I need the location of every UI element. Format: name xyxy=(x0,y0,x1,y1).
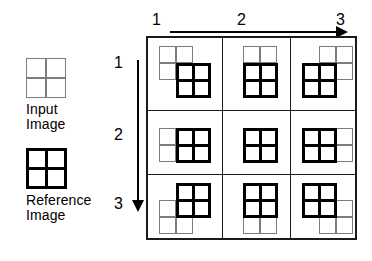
top-axis-tick-1: 1 xyxy=(152,12,161,28)
divider-horizontal xyxy=(305,144,334,147)
divider-horizontal xyxy=(179,144,208,147)
top-axis: 1 2 3 xyxy=(146,12,358,36)
divider-horizontal xyxy=(179,199,208,202)
left-axis-arrow-line xyxy=(137,60,139,202)
reference-image-square-icon xyxy=(243,183,278,218)
divider-horizontal xyxy=(27,77,65,78)
matrix-cell-r1-c1 xyxy=(148,38,223,111)
divider-horizontal xyxy=(305,199,334,202)
reference-image-square-icon xyxy=(176,63,211,98)
divider-horizontal xyxy=(246,144,275,147)
divider-horizontal xyxy=(246,199,275,202)
matrix-cell-r3-c3 xyxy=(291,175,355,238)
matrix-cell-r2-c3 xyxy=(291,111,355,175)
reference-image-square-icon xyxy=(302,63,337,98)
reference-image-square-icon xyxy=(243,63,278,98)
reference-image-square-icon xyxy=(243,128,278,163)
left-axis-arrow-head-icon xyxy=(132,200,144,212)
matrix-cell-r3-c1 xyxy=(148,175,223,238)
left-axis: 1 2 3 xyxy=(112,36,146,240)
matrix-cell-r1-c2 xyxy=(223,38,291,111)
reference-image-square-icon xyxy=(302,128,337,163)
input-image-square-icon xyxy=(26,58,66,98)
left-axis-tick-3: 3 xyxy=(114,196,123,212)
left-axis-tick-2: 2 xyxy=(114,127,123,143)
divider-horizontal xyxy=(246,79,275,82)
left-axis-tick-1: 1 xyxy=(114,55,123,71)
matrix-cell-r1-c3 xyxy=(291,38,355,111)
divider-horizontal xyxy=(179,79,208,82)
divider-horizontal xyxy=(29,167,64,170)
matrix-cell-r2-c1 xyxy=(148,111,223,175)
matrix-cell-r2-c2 xyxy=(223,111,291,175)
reference-image-square-icon xyxy=(26,148,67,189)
reference-image-square-icon xyxy=(176,183,211,218)
matrix-cell-r3-c2 xyxy=(223,175,291,238)
translation-matrix-grid xyxy=(146,36,357,240)
reference-image-square-icon xyxy=(302,183,337,218)
top-axis-tick-2: 2 xyxy=(237,12,246,28)
top-axis-arrow-line xyxy=(170,31,338,33)
divider-horizontal xyxy=(305,79,334,82)
reference-image-square-icon xyxy=(176,128,211,163)
